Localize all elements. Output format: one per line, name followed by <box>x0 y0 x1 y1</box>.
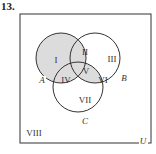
venn-diagram: I II III IV V VI VII VIII A B C U <box>0 0 156 154</box>
region-label-3: III <box>108 54 117 64</box>
region-label-2: II <box>82 47 88 57</box>
set-label-c: C <box>82 116 89 126</box>
region-label-8: VIII <box>26 128 42 138</box>
region-label-1: I <box>55 55 58 65</box>
region-label-5: V <box>83 66 90 76</box>
set-label-a: A <box>38 75 45 85</box>
region-label-4: IV <box>61 75 71 85</box>
universe-label: U <box>140 136 147 146</box>
region-label-6: VI <box>98 75 108 85</box>
region-label-7: VII <box>79 95 92 105</box>
set-label-b: B <box>121 73 127 83</box>
